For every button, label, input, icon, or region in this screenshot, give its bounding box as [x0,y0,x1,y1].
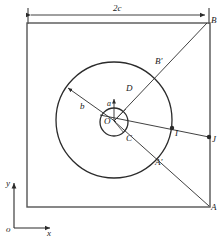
point-label-D: D [126,84,133,93]
point-dot-I [170,126,174,130]
stub-to-C [114,121,124,133]
point-label-C: C [126,134,132,143]
bounding-square [27,23,210,207]
point-label-O: O [104,117,111,126]
diagonal-upper-segment [114,23,207,121]
axis-label-x: x [47,229,51,237]
diagram-canvas: 2c B B' D O C I J A' A b a y x o [0,0,221,237]
point-label-J: J [212,135,216,144]
axis-label-y: y [6,179,10,188]
point-label-B: B [211,16,217,25]
point-label-I: I [175,129,178,138]
point-label-A: A [211,203,217,212]
point-label-A-prime: A' [155,158,162,167]
radius-label-a: a [107,100,111,108]
coordinate-axes [14,183,50,228]
axis-label-origin: o [6,225,11,234]
radius-label-b: b [80,102,85,111]
point-label-B-prime: B' [155,57,162,66]
dimension-label-2c: 2c [113,4,122,13]
point-dot-J [207,135,211,139]
